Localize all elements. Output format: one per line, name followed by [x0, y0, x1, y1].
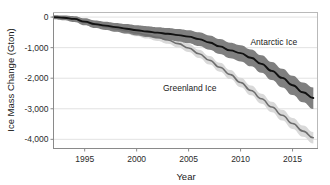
chart-canvas: 0-1,000-2,000-3,000-4,000 19952000200520…: [0, 0, 330, 185]
x-tick-label: 2015: [283, 154, 302, 164]
y-axis-title: Ice Mass Change (Gton): [5, 28, 16, 132]
y-tick-label: -3,000: [24, 104, 48, 114]
x-axis-title: Year: [176, 171, 195, 182]
y-axis-ticks: 0-1,000-2,000-3,000-4,000: [24, 12, 53, 144]
y-tick-label: -2,000: [24, 73, 48, 83]
series-label-greenland-ice: Greenland Ice: [163, 83, 217, 93]
y-tick-label: -4,000: [24, 134, 48, 144]
x-tick-label: 2000: [127, 154, 146, 164]
y-tick-label: -1,000: [24, 43, 48, 53]
x-tick-label: 2010: [231, 154, 250, 164]
ice-mass-change-chart: 0-1,000-2,000-3,000-4,000 19952000200520…: [0, 0, 330, 185]
series-label-antarctic-ice: Antarctic Ice: [250, 37, 297, 47]
x-tick-label: 1995: [75, 154, 94, 164]
y-tick-label: 0: [44, 12, 49, 22]
x-tick-label: 2005: [179, 154, 198, 164]
x-axis-ticks: 19952000200520102015: [75, 149, 302, 164]
